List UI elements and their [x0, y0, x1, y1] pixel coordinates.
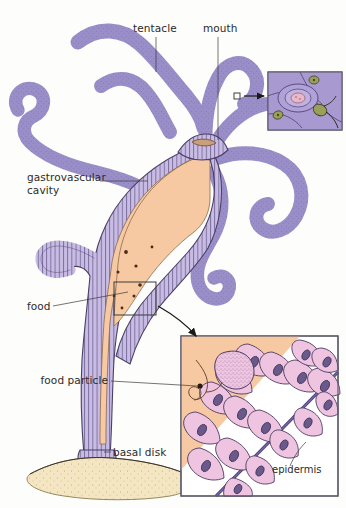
tentacle-right-long [218, 153, 301, 231]
tentacle-sample-marker [234, 93, 240, 99]
inset-callout-arrow [158, 306, 196, 336]
label-food: food [27, 300, 51, 312]
label-mouth: mouth [203, 22, 238, 34]
label-gastrovascular-cavity-line1: gastrovascular [27, 171, 106, 183]
hydra-diagram-canvas: tentacle mouth gastrovascular cavity foo… [0, 0, 346, 508]
label-tentacle: tentacle [133, 22, 177, 34]
label-epidermis: epidermis [272, 464, 321, 475]
food-particle-dot [197, 383, 202, 388]
label-gastrovascular-cavity-line2: cavity [27, 184, 59, 196]
hydra-anatomy-figure: tentacle mouth gastrovascular cavity foo… [0, 0, 346, 508]
nematocyst-capsule [291, 93, 305, 103]
substrate [27, 458, 193, 500]
nematocyst-inset [268, 72, 342, 130]
tentacle-mid-left [101, 79, 170, 132]
label-food-particle: food particle [41, 374, 108, 386]
label-basal-disk: basal disk [113, 446, 167, 458]
